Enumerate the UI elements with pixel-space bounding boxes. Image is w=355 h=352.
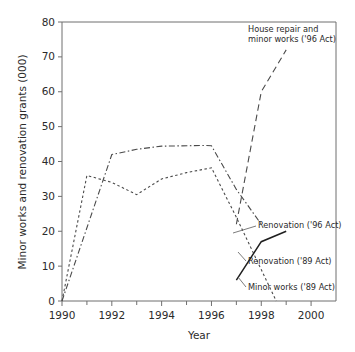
annotation-renovation-96: Renovation ('96 Act) bbox=[258, 220, 342, 230]
annotation-house-repair-line-1: minor works ('96 Act) bbox=[248, 34, 336, 44]
annotation-renovation-89-line-0: Renovation ('89 Act) bbox=[248, 256, 332, 266]
annotation-renovation-96-line-0: Renovation ('96 Act) bbox=[258, 220, 342, 230]
series-minor-works-89-act bbox=[62, 168, 276, 301]
annotation-house-repair: House repair andminor works ('96 Act) bbox=[248, 24, 336, 44]
leader-renovation-96 bbox=[233, 226, 256, 233]
x-tick-label-2000: 2000 bbox=[298, 309, 325, 321]
x-tick-label-1996: 1996 bbox=[198, 309, 225, 321]
x-axis-ticks: 199019921994199619982000 bbox=[49, 301, 325, 321]
y-axis-title: Minor works and renovation grants (000) bbox=[16, 55, 28, 270]
leader-renovation-89 bbox=[238, 252, 246, 261]
y-tick-label-60: 60 bbox=[42, 85, 55, 97]
x-axis-title: Year bbox=[187, 329, 211, 341]
annotation-renovation-89: Renovation ('89 Act) bbox=[248, 256, 332, 266]
y-tick-label-0: 0 bbox=[48, 295, 55, 307]
y-tick-label-80: 80 bbox=[42, 16, 55, 28]
x-tick-label-1998: 1998 bbox=[248, 309, 275, 321]
annotation-house-repair-line-0: House repair and bbox=[248, 24, 318, 34]
x-tick-label-1990: 1990 bbox=[49, 309, 76, 321]
series-renovation-89-act bbox=[62, 145, 261, 301]
y-tick-label-20: 20 bbox=[42, 225, 55, 237]
line-chart: 01020304050607080 1990199219941996199820… bbox=[0, 0, 355, 352]
x-tick-label-1992: 1992 bbox=[98, 309, 125, 321]
series-house-repair-and-minor-works-96-act bbox=[236, 50, 286, 224]
annotation-labels: House repair andminor works ('96 Act)Ren… bbox=[248, 24, 342, 292]
annotation-minor-works-89: Minor works ('89 Act) bbox=[248, 282, 335, 292]
y-tick-label-40: 40 bbox=[42, 155, 55, 167]
y-tick-label-10: 10 bbox=[42, 260, 55, 272]
y-tick-label-70: 70 bbox=[42, 50, 55, 62]
leader-minor-works-89 bbox=[238, 277, 246, 287]
x-tick-label-1994: 1994 bbox=[148, 309, 175, 321]
annotation-minor-works-89-line-0: Minor works ('89 Act) bbox=[248, 282, 335, 292]
chart-container: 01020304050607080 1990199219941996199820… bbox=[0, 0, 355, 352]
y-tick-label-50: 50 bbox=[42, 120, 55, 132]
y-tick-label-30: 30 bbox=[42, 190, 55, 202]
y-axis-ticks: 01020304050607080 bbox=[42, 16, 62, 307]
